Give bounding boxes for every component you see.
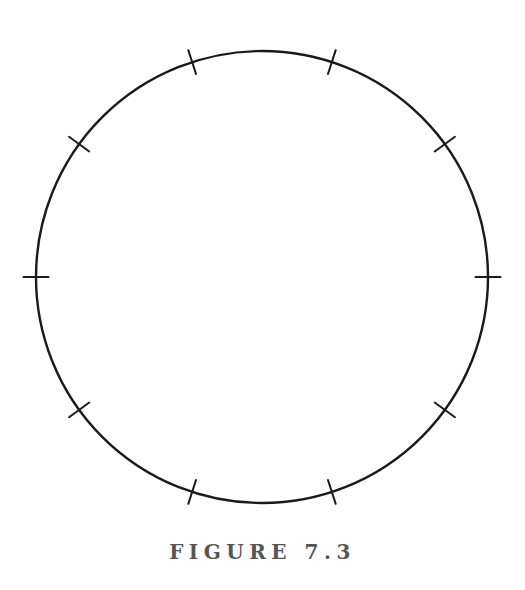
circle-group	[36, 51, 488, 503]
tick-mark	[69, 402, 89, 417]
tick-mark-group	[24, 50, 501, 504]
main-circle	[36, 51, 488, 503]
figure-circle-diagram	[0, 0, 525, 525]
tick-mark	[69, 137, 89, 152]
tick-mark	[435, 402, 455, 417]
figure-caption: FIGURE 7.3	[0, 538, 525, 566]
tick-mark	[435, 137, 455, 152]
figure-container: FIGURE 7.3	[0, 0, 525, 590]
